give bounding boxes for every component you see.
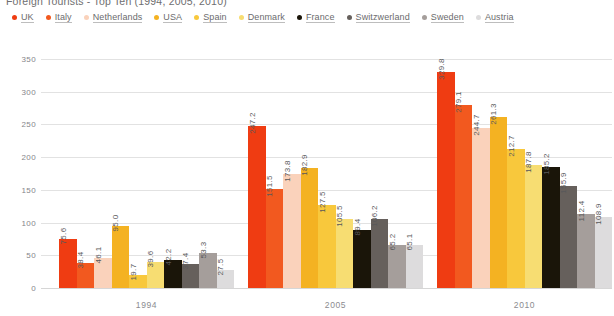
legend-label: Spain <box>203 12 227 23</box>
bar-group-2010: 329.8279.1244.7261.3212.7187.8185.2155.9… <box>437 28 612 288</box>
bar-value-label: 65.2 <box>388 234 397 251</box>
bar-spain-1994[interactable]: 19.7 <box>129 275 147 288</box>
bar-usa-1994[interactable]: 95.0 <box>112 226 130 288</box>
bar-sweden-2010[interactable]: 112.4 <box>577 214 595 288</box>
x-axis-group-label-holder: 1994 <box>59 288 234 316</box>
legend-label: Switzwerland <box>356 12 410 23</box>
bar-value-label: 106.2 <box>370 205 379 227</box>
bar-netherlands-2005[interactable]: 173.8 <box>283 174 301 288</box>
legend-item-switzwerland[interactable]: Switzwerland <box>347 12 410 23</box>
bar-value-label: 261.3 <box>489 103 498 125</box>
bar-france-1994[interactable]: 42.2 <box>164 260 182 288</box>
bar-value-label: 279.1 <box>454 92 463 114</box>
legend-swatch-icon <box>154 15 159 20</box>
bar-italy-2010[interactable]: 279.1 <box>455 105 473 288</box>
bar-denmark-2010[interactable]: 187.8 <box>525 165 543 288</box>
y-axis-title: in Thousands <box>0 230 1 279</box>
legend-item-spain[interactable]: Spain <box>194 12 227 23</box>
bar-switzwerland-2005[interactable]: 106.2 <box>371 219 389 288</box>
bar-group-bars: 247.2151.5173.8182.9127.5105.589.4106.26… <box>248 28 423 288</box>
y-axis-tick-label: 0 <box>12 284 36 293</box>
bar-usa-2010[interactable]: 261.3 <box>490 117 508 288</box>
legend-label: UK <box>21 12 34 23</box>
legend-swatch-icon <box>422 15 427 20</box>
chart-title-text: Foreign Tourists - Top Ten (1994, 2005, … <box>6 0 227 7</box>
legend-swatch-icon <box>194 15 199 20</box>
bar-uk-2005[interactable]: 247.2 <box>248 126 266 288</box>
bar-value-label: 38.4 <box>76 252 85 269</box>
bar-value-label: 65.1 <box>405 234 414 251</box>
y-axis-tick-label: 50 <box>12 251 36 260</box>
x-axis-group-label: 1994 <box>59 300 234 310</box>
y-axis-tick-label: 300 <box>12 87 36 96</box>
legend-label: Austria <box>485 12 514 23</box>
bar-switzwerland-2010[interactable]: 155.9 <box>560 186 578 288</box>
legend-item-netherlands[interactable]: Netherlands <box>84 12 143 23</box>
bar-value-label: 187.8 <box>524 151 533 173</box>
bar-value-label: 27.5 <box>216 259 225 276</box>
bar-value-label: 182.9 <box>300 155 309 177</box>
y-axis-tick-label: 200 <box>12 153 36 162</box>
bar-group-1994: 75.638.446.195.019.739.642.237.453.327.5 <box>59 28 234 288</box>
bar-uk-1994[interactable]: 75.6 <box>59 239 77 288</box>
legend-swatch-icon <box>347 15 352 20</box>
bar-usa-2005[interactable]: 182.9 <box>301 168 319 288</box>
bar-value-label: 151.5 <box>265 175 274 197</box>
bar-sweden-1994[interactable]: 53.3 <box>199 253 217 288</box>
bar-denmark-1994[interactable]: 39.6 <box>147 262 165 288</box>
legend-swatch-icon <box>84 15 89 20</box>
bar-sweden-2005[interactable]: 65.2 <box>388 245 406 288</box>
bar-value-label: 185.2 <box>542 153 551 175</box>
bar-value-label: 212.7 <box>507 135 516 157</box>
legend-label: USA <box>163 12 182 23</box>
bar-denmark-2005[interactable]: 105.5 <box>336 219 354 288</box>
bar-uk-2010[interactable]: 329.8 <box>437 72 455 288</box>
bar-spain-2005[interactable]: 127.5 <box>318 205 336 288</box>
bar-value-label: 329.8 <box>437 59 446 81</box>
bar-austria-2010[interactable]: 108.9 <box>595 217 613 288</box>
legend-item-denmark[interactable]: Denmark <box>239 12 285 23</box>
bar-france-2010[interactable]: 185.2 <box>542 167 560 288</box>
legend-swatch-icon <box>12 15 17 20</box>
legend-label: Italy <box>55 12 72 23</box>
legend-swatch-icon <box>46 15 51 20</box>
bar-value-label: 89.4 <box>353 218 362 235</box>
bar-italy-2005[interactable]: 151.5 <box>266 189 284 288</box>
legend-item-usa[interactable]: USA <box>154 12 182 23</box>
bar-switzwerland-1994[interactable]: 37.4 <box>182 264 200 288</box>
bar-netherlands-2010[interactable]: 244.7 <box>472 128 490 288</box>
bar-value-label: 112.4 <box>577 201 586 222</box>
legend-item-austria[interactable]: Austria <box>476 12 514 23</box>
x-axis-group-label: 2010 <box>437 300 612 310</box>
bar-value-label: 46.1 <box>94 246 103 263</box>
bar-value-label: 173.8 <box>283 161 292 183</box>
bar-italy-1994[interactable]: 38.4 <box>77 263 95 288</box>
legend-item-uk[interactable]: UK <box>12 12 34 23</box>
x-axis-group-label-holder: 2005 <box>248 288 423 316</box>
bar-value-label: 127.5 <box>318 191 327 213</box>
legend-label: Sweden <box>431 12 464 23</box>
bar-value-label: 39.6 <box>146 251 155 268</box>
bar-value-label: 244.7 <box>472 114 481 136</box>
bar-austria-1994[interactable]: 27.5 <box>217 270 235 288</box>
legend-swatch-icon <box>476 15 481 20</box>
y-axis-tick-label: 100 <box>12 218 36 227</box>
plot-area: in Thousands 050100150200250300350 75.63… <box>0 28 614 316</box>
legend-item-italy[interactable]: Italy <box>46 12 72 23</box>
bar-austria-2005[interactable]: 65.1 <box>406 245 424 288</box>
bar-spain-2010[interactable]: 212.7 <box>507 149 525 288</box>
bar-france-2005[interactable]: 89.4 <box>353 230 371 288</box>
y-axis-tick-label: 350 <box>12 55 36 64</box>
x-axis-group-label: 2005 <box>248 300 423 310</box>
bar-group-2005: 247.2151.5173.8182.9127.5105.589.4106.26… <box>248 28 423 288</box>
bars-layer: 75.638.446.195.019.739.642.237.453.327.5… <box>41 28 612 316</box>
bar-netherlands-1994[interactable]: 46.1 <box>94 258 112 288</box>
legend-swatch-icon <box>297 15 302 20</box>
legend-swatch-icon <box>239 15 244 20</box>
legend-label: Netherlands <box>93 12 143 23</box>
legend-item-sweden[interactable]: Sweden <box>422 12 464 23</box>
bar-value-label: 19.7 <box>129 264 138 281</box>
bar-group-bars: 75.638.446.195.019.739.642.237.453.327.5 <box>59 28 234 288</box>
bar-value-label: 95.0 <box>111 214 120 231</box>
legend-item-france[interactable]: France <box>297 12 335 23</box>
